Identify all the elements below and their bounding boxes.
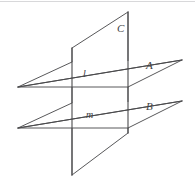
- line-label-m: m: [86, 110, 93, 120]
- line-label-l: l: [83, 69, 86, 79]
- geometry-diagram: C A B l m: [0, 0, 195, 183]
- diagram-canvas: [0, 0, 195, 183]
- vertical-plane-C: [72, 12, 128, 175]
- plane-label-C: C: [117, 23, 124, 34]
- plane-label-B: B: [146, 101, 153, 112]
- plane-label-A: A: [146, 60, 153, 71]
- plane-C-face: [72, 12, 128, 175]
